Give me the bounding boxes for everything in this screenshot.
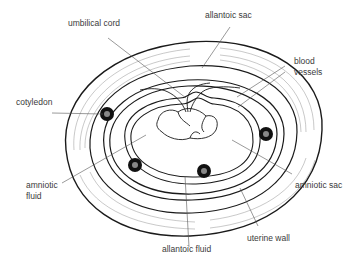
label-blood-vessels-2: vessels	[294, 67, 322, 77]
label-allantoic-sac: allantoic sac	[205, 10, 252, 20]
label-amniotic-sac: amniotic sac	[295, 180, 342, 190]
label-cotyledon: cotyledon	[16, 97, 52, 107]
label-umbilical-cord: umbilical cord	[68, 18, 120, 28]
placenta-illustration	[0, 0, 355, 267]
label-blood-vessels-1: blood	[294, 56, 315, 66]
label-amniotic-fluid-1: amniotic	[26, 180, 58, 190]
fetus-shape	[157, 109, 217, 140]
leader-lines	[52, 27, 292, 247]
cotyledon-shapes	[100, 107, 273, 178]
umbilical-cord-shape	[140, 83, 240, 112]
label-allantoic-fluid: allantoic fluid	[162, 244, 211, 254]
label-uterine-wall: uterine wall	[247, 233, 290, 243]
diagram-canvas: umbilical cord allantoic sac blood vesse…	[0, 0, 355, 267]
label-amniotic-fluid-2: fluid	[26, 191, 42, 201]
